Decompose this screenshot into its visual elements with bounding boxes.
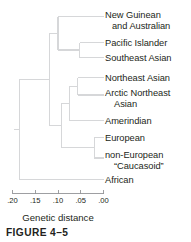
axis-tick-label: .00: [94, 196, 114, 205]
leaf-text-line1: Pacific Islander: [105, 38, 167, 48]
leaf-text-line1: European: [105, 133, 145, 143]
leaf-label-amerindian: Amerindian: [105, 116, 152, 127]
leaf-text-line1: non-European: [105, 150, 163, 160]
leaf-label-non-european-caucasoid: non-European“Caucasoid”: [105, 150, 164, 171]
leaf-text-line2: Asian: [105, 99, 137, 110]
leaf-text-line1: Southeast Asian: [105, 53, 171, 63]
leaf-text-line2: and Australian: [105, 21, 170, 32]
leaf-text-line1: Arctic Northeast: [105, 88, 170, 98]
leaf-label-pacific-islander: Pacific Islander: [105, 38, 167, 49]
dendrogram-tree: [0, 0, 191, 242]
leaf-label-arctic-northeast-asian: Arctic NortheastAsian: [105, 88, 170, 109]
leaf-text-line2: “Caucasoid”: [105, 161, 164, 172]
figure-caption: FIGURE 4–5: [6, 227, 68, 238]
axis-tick-label: .20: [3, 196, 23, 205]
leaf-text-line1: New Guinean: [105, 10, 161, 20]
leaf-text-line1: Northeast Asian: [105, 73, 170, 83]
leaf-text-line1: Amerindian: [105, 116, 152, 126]
leaf-label-new-guinean-australian: New Guineanand Australian: [105, 10, 170, 31]
leaf-label-southeast-asian: Southeast Asian: [105, 53, 171, 64]
axis-tick-label: .05: [71, 196, 91, 205]
leaf-label-northeast-asian: Northeast Asian: [105, 73, 170, 84]
leaf-label-european: European: [105, 133, 145, 144]
axis-title: Genetic distance: [0, 212, 116, 223]
axis-tick-label: .10: [48, 196, 68, 205]
leaf-text-line1: African: [105, 175, 134, 185]
axis-tick-label: .15: [25, 196, 45, 205]
figure-container: New Guineanand Australian Pacific Island…: [0, 0, 191, 242]
leaf-label-african: African: [105, 175, 134, 186]
